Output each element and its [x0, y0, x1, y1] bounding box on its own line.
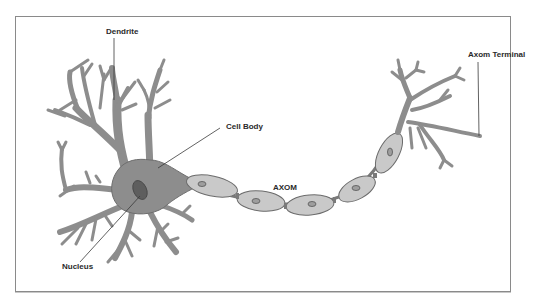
label-axon-terminal: Axom Terminal — [468, 50, 525, 59]
myelin-segment-3 — [285, 193, 335, 217]
myelin-segment-2 — [236, 189, 286, 214]
label-cell-body: Cell Body — [226, 122, 263, 131]
cell-body — [112, 159, 198, 214]
axon-terminal — [392, 60, 480, 168]
cell-body-leader-line — [158, 128, 220, 168]
myelin-segment-1 — [184, 171, 239, 201]
label-dendrite: Dendrite — [106, 27, 139, 36]
neuron-diagram: Dendrite Cell Body AXOM Axom Terminal Nu… — [0, 0, 558, 307]
myelin-segment-4 — [335, 171, 380, 207]
label-axon: AXOM — [273, 183, 297, 192]
axon — [184, 129, 408, 217]
dendrites — [48, 60, 192, 262]
label-nucleus: Nucleus — [62, 262, 94, 271]
axon-terminal-leader-line — [478, 62, 479, 136]
